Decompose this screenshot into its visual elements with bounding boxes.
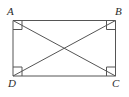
geometry-figure: A B C D (0, 0, 129, 97)
vertex-label-a: A (7, 6, 14, 17)
diagonals (13, 21, 116, 77)
vertex-label-c: C (112, 78, 119, 89)
rectangle-diagram-svg (0, 0, 129, 97)
vertex-label-d: D (8, 78, 16, 89)
vertex-label-b: B (115, 6, 122, 17)
